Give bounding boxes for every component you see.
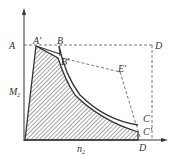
hatched-region	[25, 46, 138, 140]
label-b: B	[57, 35, 63, 46]
label-d-bottom: D	[138, 142, 147, 153]
y-axis-arrow-icon	[22, 8, 26, 15]
dashed-b-prime-e-prime	[62, 58, 120, 72]
label-a: A	[8, 40, 16, 51]
label-c-prime: C'	[143, 126, 153, 137]
label-a-prime: A'	[32, 35, 42, 46]
label-b-prime: B'	[61, 56, 70, 67]
label-d-top: D	[154, 40, 163, 51]
label-e-prime: E'	[117, 63, 127, 74]
label-m: M2	[8, 86, 20, 98]
operating-region-diagram: A A' B B' D E' C C' D M2 n2	[0, 0, 175, 158]
label-c: C	[143, 113, 150, 124]
x-axis-arrow-icon	[161, 138, 168, 142]
label-n: n2	[77, 143, 85, 155]
diagram: A A' B B' D E' C C' D M2 n2	[0, 0, 175, 158]
